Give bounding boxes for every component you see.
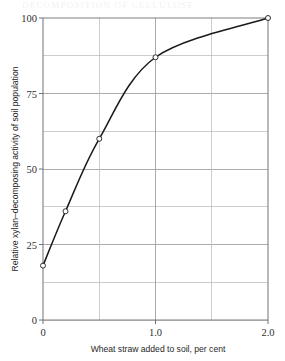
y-tick-label-0: 0: [32, 315, 37, 326]
y-tick-label-50: 50: [27, 164, 38, 175]
y-axis-title: Relative xylan–decomposing activity of s…: [10, 66, 20, 271]
x-tick-label-0: 0: [40, 327, 45, 338]
x-tick-label-1: 1.0: [149, 327, 162, 338]
data-marker-2: [97, 136, 102, 141]
figure-container: DECOMPOSITION OF CELLULOSE: [0, 0, 285, 361]
x-axis-tick-labels: 0 1.0 2.0: [40, 327, 274, 338]
xylan-activity-line-chart: 100 75 50 25 0 0 1.0 2.0 Wheat straw add…: [0, 0, 285, 361]
data-marker-0: [41, 263, 46, 268]
y-tick-label-75: 75: [27, 89, 38, 100]
data-marker-3: [153, 55, 158, 60]
x-axis-ticks: [43, 320, 268, 324]
y-tick-label-25: 25: [27, 240, 38, 251]
y-axis-tick-labels: 100 75 50 25 0: [21, 13, 37, 326]
y-tick-label-100: 100: [21, 13, 37, 24]
y-axis-ticks: [39, 18, 43, 320]
x-tick-label-2: 2.0: [261, 327, 274, 338]
data-marker-4: [266, 16, 271, 21]
x-axis-title: Wheat straw added to soil, per cent: [91, 344, 226, 354]
data-marker-1: [63, 209, 68, 214]
